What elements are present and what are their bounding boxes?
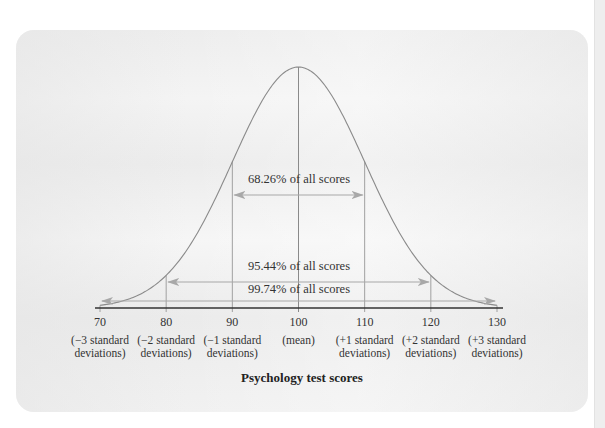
tick-description: (mean) [282, 334, 315, 346]
sd-guide-lines [100, 67, 497, 312]
range-annotations: 68.26% of all scores95.44% of all scores… [248, 172, 350, 296]
range-label-1: 95.44% of all scores [248, 259, 350, 273]
range-label-2: 99.74% of all scores [248, 282, 350, 296]
range-label-0: 68.26% of all scores [248, 172, 350, 186]
tick-description: (+3 standard deviations) [468, 334, 526, 359]
x-axis-title: Psychology test scores [0, 370, 604, 386]
tick-130: 130(+3 standard deviations) [452, 316, 542, 360]
tick-value: 130 [452, 316, 542, 329]
